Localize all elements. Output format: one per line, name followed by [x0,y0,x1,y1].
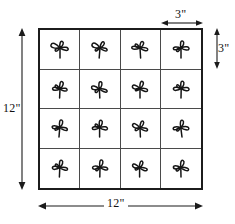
grid-cell-r2c3 [121,70,161,110]
grid-cell-r2c4 [161,70,201,110]
plant-seedling-icon [47,37,73,61]
planting-grid-figure: 12" 12" 3" 3" [0,0,235,224]
grid-cell-r2c1 [40,70,80,110]
plant-seedling-icon [87,156,113,180]
plant-seedling-icon [168,77,194,101]
plant-seedling-icon [127,156,153,180]
grid-cell-r3c2 [80,109,120,149]
plant-seedling-icon [47,156,73,180]
plant-seedling-icon [87,77,113,101]
plant-seedling-icon [127,77,153,101]
plant-seedling-icon [87,116,113,140]
plant-seedling-icon [87,37,113,61]
plant-seedling-icon [168,37,194,61]
dimension-label-bottom-width: 12" [104,196,128,211]
grid-cell-r3c4 [161,109,201,149]
dimension-label-cell-width: 3" [173,7,189,22]
grid-cell-r1c1 [40,30,80,70]
grid-cell-r2c2 [80,70,120,110]
grid-cell-r3c3 [121,109,161,149]
plant-seedling-icon [168,156,194,180]
grid-cell-r1c2 [80,30,120,70]
plant-seedling-icon [168,116,194,140]
grid-cell-r4c4 [161,149,201,189]
grid-cell-r4c1 [40,149,80,189]
plant-seedling-icon [127,37,153,61]
grid-cell-r1c4 [161,30,201,70]
plant-seedling-icon [47,77,73,101]
garden-bed-outline [38,28,203,190]
grid-cell-r3c1 [40,109,80,149]
grid-cell-r1c3 [121,30,161,70]
grid-cell-r4c3 [121,149,161,189]
plant-seedling-icon [47,116,73,140]
plant-seedling-icon [127,116,153,140]
dimension-label-left-height: 12" [3,101,21,116]
dimension-label-cell-height: 3" [218,41,230,56]
cell-grid [40,30,201,188]
grid-cell-r4c2 [80,149,120,189]
